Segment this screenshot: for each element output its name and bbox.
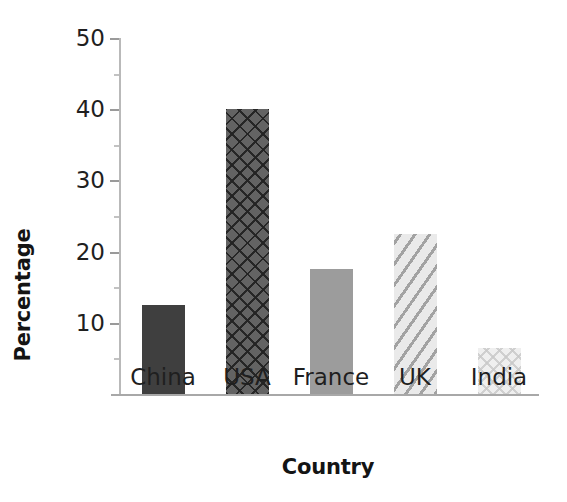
x-label-china: China	[130, 366, 196, 389]
y-axis-line	[119, 38, 121, 395]
y-tick-label: 30	[76, 169, 105, 192]
y-axis-title-text: Percentage	[11, 228, 35, 361]
y-tick-mark	[110, 109, 119, 111]
x-label-usa: USA	[223, 366, 271, 389]
plot-area: 1020304050	[119, 38, 539, 394]
y-minor-tick-5	[114, 358, 119, 360]
bar-chart: Percentage 1020304050 ChinaUSAFranceUKIn…	[0, 0, 567, 502]
y-tick-mark	[110, 323, 119, 325]
y-tick-label: 50	[76, 27, 105, 50]
y-tick-label: 10	[76, 311, 105, 334]
y-tick-mark	[110, 38, 119, 40]
y-minor-tick-35	[114, 145, 119, 147]
x-axis-line	[111, 394, 539, 396]
y-axis-title: Percentage	[0, 0, 46, 502]
y-tick-label: 40	[76, 98, 105, 121]
y-minor-tick-25	[114, 216, 119, 218]
y-tick-mark	[110, 252, 119, 254]
x-label-uk: UK	[399, 366, 431, 389]
x-axis-title: Country	[118, 455, 538, 479]
x-label-india: India	[471, 366, 527, 389]
y-tick-label: 20	[76, 240, 105, 263]
y-tick-mark	[110, 180, 119, 182]
x-label-france: France	[293, 366, 369, 389]
y-minor-tick-45	[114, 74, 119, 76]
y-minor-tick-15	[114, 287, 119, 289]
bar-usa[interactable]	[226, 109, 269, 394]
